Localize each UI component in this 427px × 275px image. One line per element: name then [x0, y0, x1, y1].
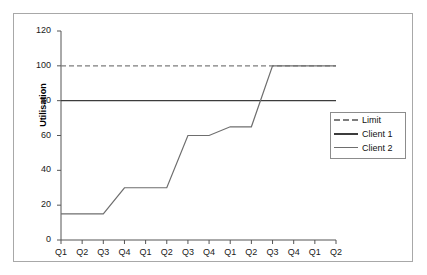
data-series-lines — [61, 66, 336, 214]
chart-figure: Utilisation 020406080100120 Q1Q2Q3Q4Q1Q2… — [0, 0, 427, 275]
legend-swatch-client-2-icon — [334, 143, 358, 153]
x-tick-label: Q2 — [324, 247, 348, 257]
y-tick-label: 100 — [25, 60, 51, 70]
legend-item-client-2: Client 2 — [331, 141, 405, 155]
legend-label-limit: Limit — [358, 115, 381, 125]
y-axis-ticks — [57, 31, 61, 240]
series-line-client-2 — [61, 66, 336, 214]
y-tick-label: 0 — [25, 234, 51, 244]
y-tick-label: 120 — [25, 25, 51, 35]
legend-swatch-client-1-icon — [334, 129, 358, 139]
y-tick-label: 60 — [25, 130, 51, 140]
x-axis-ticks — [61, 240, 336, 244]
y-tick-label: 40 — [25, 164, 51, 174]
legend-swatch-limit-icon — [334, 115, 358, 125]
legend-item-limit: Limit — [331, 113, 405, 127]
legend-label-client-2: Client 2 — [358, 143, 393, 153]
y-tick-label: 80 — [25, 95, 51, 105]
chart-legend: Limit Client 1 Client 2 — [330, 112, 406, 159]
legend-label-client-1: Client 1 — [358, 129, 393, 139]
y-tick-label: 20 — [25, 199, 51, 209]
legend-item-client-1: Client 1 — [331, 127, 405, 141]
